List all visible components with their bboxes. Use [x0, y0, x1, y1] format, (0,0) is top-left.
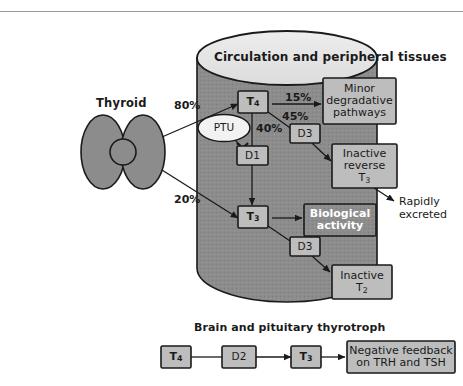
inactive-reverse-line-3: T3 — [359, 172, 371, 184]
negative-feedback-line-2: on TRH and TSH — [356, 357, 446, 369]
percent-40-label: 40% — [256, 123, 282, 135]
percent-20-label: 20% — [174, 194, 200, 206]
brain-t4-node-label: T4 — [161, 346, 191, 368]
negative-feedback-box-label: Negative feedback on TRH and TSH — [347, 341, 455, 373]
inactive-reverse-line-1: Inactive — [343, 148, 387, 160]
cylinder-title: Circulation and peripheral tissues — [214, 51, 447, 64]
t4-node-label: T4 — [238, 91, 268, 113]
ptu-node-label: PTU — [198, 115, 250, 141]
minor-degradative-line-3: pathways — [333, 107, 386, 119]
biological-activity-line-2: activity — [317, 220, 363, 232]
brain-section-title: Brain and pituitary thyrotroph — [194, 322, 385, 334]
rapidly-excreted-line-2: excreted — [399, 209, 447, 221]
percent-80-label: 80% — [174, 100, 200, 112]
percent-15-label: 15% — [285, 92, 311, 104]
minor-degradative-box-label: Minor degradative pathways — [323, 78, 396, 124]
biological-activity-box-label: Biological activity — [304, 204, 376, 236]
rapidly-excreted-line-1: Rapidly — [399, 196, 440, 208]
brain-t3-node-label: T3 — [291, 346, 321, 368]
thyroid-label: Thyroid — [96, 97, 147, 109]
t3-node-label: T3 — [238, 206, 268, 228]
brain-d2-node-label: D2 — [222, 346, 256, 368]
thyroid-hormone-metabolism-diagram: Circulation and peripheral tissues Thyro… — [0, 0, 463, 386]
minor-degradative-line-1: Minor — [344, 83, 375, 95]
d3-upper-node-label: D3 — [290, 124, 320, 143]
d1-node-label: D1 — [237, 146, 268, 165]
inactive-t2-box-label: Inactive T2 — [332, 265, 392, 299]
inactive-t2-line-2: T2 — [356, 282, 368, 294]
inactive-reverse-t3-box-label: Inactive reverse T3 — [332, 144, 397, 188]
thyroid-gland-shape — [81, 115, 165, 189]
percent-45-label: 45% — [282, 111, 308, 123]
d3-lower-node-label: D3 — [290, 237, 320, 256]
